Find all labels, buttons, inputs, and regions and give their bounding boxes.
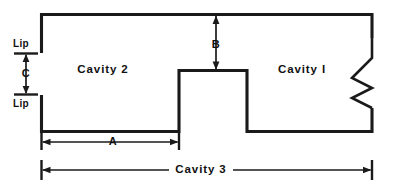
cavity-diagram: Cavity 2 Cavity I A B C Cavity 3 Lip Lip — [0, 0, 402, 186]
diagram-canvas — [0, 0, 402, 186]
dim-a-arrow-left — [42, 139, 51, 146]
break-line-icon — [352, 38, 372, 108]
annotation-label-lip-upper: Lip — [13, 39, 29, 49]
outline-left-wall-upper — [42, 15, 373, 54]
dimension-label-a: A — [109, 136, 117, 147]
dim-b-arrow-bottom — [213, 62, 220, 71]
dimension-label-cavity-3: Cavity 3 — [175, 164, 226, 176]
dimension-label-b: B — [212, 39, 220, 50]
annotation-label-lip-lower: Lip — [13, 99, 29, 109]
region-label-cavity-1: Cavity I — [278, 64, 326, 76]
dim-c-arrow-bottom — [23, 86, 30, 94]
region-label-cavity-2: Cavity 2 — [77, 64, 128, 76]
dim-cavity3-arrow-right — [363, 167, 372, 174]
outline-lower-profile — [42, 71, 373, 132]
dim-b-arrow-top — [213, 16, 220, 25]
dim-c-arrow-top — [23, 54, 30, 62]
dimension-label-c: C — [22, 68, 30, 79]
dim-a-arrow-right — [170, 139, 179, 146]
dim-cavity3-arrow-left — [42, 167, 51, 174]
